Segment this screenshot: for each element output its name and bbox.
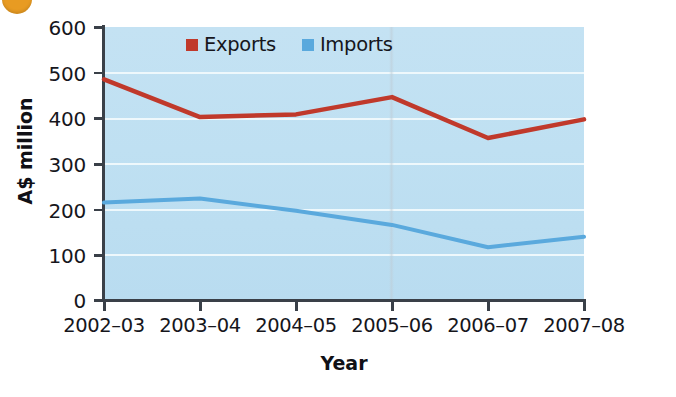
x-tick-5 [583, 301, 586, 311]
legend-label-imports: Imports [320, 33, 393, 56]
legend-swatch-exports [186, 39, 198, 51]
y-tick-label-100: 100 [24, 244, 86, 268]
orange-bullet-icon [2, 0, 32, 14]
legend-label-exports: Exports [204, 33, 276, 56]
x-tick-2 [295, 301, 298, 311]
y-tick-400 [94, 117, 103, 120]
gridline-100 [104, 254, 584, 256]
x-tick-4 [487, 301, 490, 311]
gridline-200 [104, 209, 584, 211]
y-tick-100 [94, 254, 103, 257]
x-axis-line [102, 299, 586, 302]
x-tick-3 [391, 301, 394, 311]
x-tick-0 [103, 301, 106, 311]
gridline-400 [104, 118, 584, 120]
chart-figure: 600 500 400 300 200 100 0 2002–03 2003–0… [0, 0, 676, 397]
legend-swatch-imports [302, 39, 314, 51]
gridline-500 [104, 72, 584, 74]
y-tick-500 [94, 72, 103, 75]
y-axis-title: A$ million [14, 81, 36, 221]
y-tick-label-600: 600 [24, 16, 86, 40]
plot-area [104, 27, 584, 300]
y-tick-200 [94, 209, 103, 212]
x-axis-title: Year [104, 352, 584, 374]
y-tick-600 [94, 26, 103, 29]
y-tick-300 [94, 163, 103, 166]
legend-item-imports[interactable]: Imports [302, 33, 393, 56]
gridline-300 [104, 163, 584, 165]
x-tick-label-2007-08: 2007–08 [524, 314, 644, 337]
y-tick-label-0: 0 [24, 289, 86, 313]
x-tick-1 [199, 301, 202, 311]
legend-item-exports[interactable]: Exports [186, 33, 276, 56]
chart-legend: Exports Imports [186, 33, 393, 56]
y-tick-0 [94, 299, 103, 302]
